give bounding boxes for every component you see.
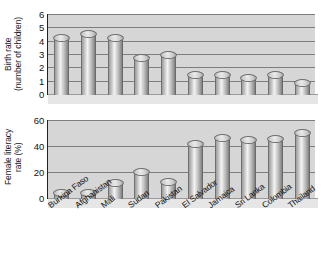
bar-colombia [268, 71, 283, 95]
bar-body [161, 55, 176, 95]
bar-top-inner [56, 37, 67, 41]
bar-top-inner [297, 82, 308, 86]
bar-jamaica [215, 71, 230, 95]
chart-base-slab-birth-rate [48, 94, 318, 104]
bar-top-inner [190, 143, 201, 147]
y-axis-tick-label: 40 [34, 141, 44, 152]
y-axis-title-birth-rate: Birth rate (number of children) [3, 8, 25, 100]
x-axis-category-labels: Burkina FasoAfghanistanMaliSudanPakistan… [0, 200, 323, 259]
y-axis-tick-label: 1 [39, 76, 44, 87]
bar-top-ellipse [267, 71, 284, 79]
bar-top-inner [163, 54, 174, 58]
bar-top-inner [136, 57, 147, 61]
bar-afghanistan [81, 30, 96, 95]
bar-top-ellipse [214, 71, 231, 79]
bar-top-ellipse [133, 168, 150, 176]
bar-body [81, 34, 96, 95]
bar-thailand [295, 79, 310, 95]
bar-group-female-literacy [48, 120, 315, 199]
bar-top-inner [270, 74, 281, 78]
y-axis-tick-label: 60 [34, 115, 44, 126]
bar-mali [108, 34, 123, 95]
bar-body [108, 38, 123, 95]
chart-panel-birth-rate: Birth rate (number of children) 0123456 [0, 0, 323, 108]
bar-top-ellipse [294, 129, 311, 137]
bar-top-ellipse [240, 74, 257, 82]
bar-top-inner [243, 139, 254, 143]
bar-sri-lanka [241, 74, 256, 95]
bar-top-ellipse [240, 136, 257, 144]
bar-top-ellipse [107, 34, 124, 42]
bar-top-inner [217, 74, 228, 78]
bar-top-inner [83, 33, 94, 37]
bar-top-ellipse [53, 34, 70, 42]
bar-top-ellipse [214, 134, 231, 142]
y-axis-tick-label: 0 [39, 89, 44, 100]
bar-sudan [134, 54, 149, 95]
bar-burkina-faso [54, 34, 69, 95]
y-axis-tick-label: 5 [39, 22, 44, 33]
bar-top-inner [190, 74, 201, 78]
bar-top-inner [297, 132, 308, 136]
y-axis-tick-label: 20 [34, 167, 44, 178]
y-axis-tick-label: 3 [39, 49, 44, 60]
bar-top-inner [243, 77, 254, 81]
bar-group-birth-rate [48, 14, 315, 95]
bar-top-ellipse [187, 140, 204, 148]
bar-body [134, 58, 149, 95]
y-axis-tick-label: 6 [39, 9, 44, 20]
bar-top-ellipse [160, 51, 177, 59]
bar-top-inner [110, 37, 121, 41]
bar-top-inner [136, 171, 147, 175]
y-axis-tick-labels-female-literacy: 0204060 [26, 108, 44, 208]
y-axis-tick-labels-birth-rate: 0123456 [26, 0, 44, 108]
bar-top-ellipse [267, 135, 284, 143]
y-axis-title-female-literacy: Female literacy rate (%) [3, 114, 25, 200]
bar-top-ellipse [133, 54, 150, 62]
y-axis-tick-label: 2 [39, 62, 44, 73]
bar-body [54, 38, 69, 95]
bar-top-ellipse [187, 71, 204, 79]
bar-top-inner [217, 137, 228, 141]
bar-top-inner [270, 138, 281, 142]
y-axis-tick-label: 4 [39, 36, 44, 47]
bar-pakistan [161, 51, 176, 95]
figure-two-panel-bar-charts: Birth rate (number of children) 0123456 … [0, 0, 323, 259]
bar-top-ellipse [80, 30, 97, 38]
bar-el-salvador [188, 71, 203, 95]
bar-top-inner [163, 181, 174, 185]
bar-top-ellipse [294, 79, 311, 87]
